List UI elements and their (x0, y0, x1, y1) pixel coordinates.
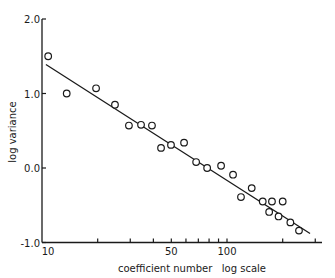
data-point (204, 165, 211, 172)
data-point (112, 101, 119, 108)
data-point (248, 185, 255, 192)
x-axis: 1050100 (42, 239, 322, 257)
data-point (269, 198, 276, 205)
y-tick-label: -1.0 (20, 238, 40, 249)
data-point (158, 145, 165, 152)
data-point (279, 198, 286, 205)
data-point (259, 198, 266, 205)
data-point (138, 121, 145, 128)
data-point (63, 90, 70, 97)
regression-line (46, 64, 310, 233)
x-tick-label: 10 (42, 246, 55, 257)
y-tick-label: 1.0 (24, 89, 40, 100)
data-point (218, 162, 225, 169)
data-point (296, 227, 303, 234)
data-point (266, 209, 273, 216)
y-axis: 2.01.00.0-1.0 (20, 14, 46, 249)
data-point (181, 139, 188, 146)
x-axis-label: coefficient number log scale (118, 263, 266, 274)
data-point (149, 122, 156, 129)
y-tick-label: 2.0 (24, 14, 40, 25)
x-tick-label: 50 (165, 246, 178, 257)
data-point (193, 159, 200, 166)
scatter-chart: 2.01.00.0-1.0 1050100 log variance coeff… (0, 0, 335, 278)
y-axis-label: log variance (7, 101, 18, 162)
data-point (126, 122, 133, 129)
fit-line (46, 64, 310, 233)
data-point (275, 213, 282, 220)
data-point (45, 53, 52, 60)
data-point (168, 142, 175, 149)
x-tick-label: 100 (217, 246, 236, 257)
data-point (238, 194, 245, 201)
y-tick-label: 0.0 (24, 163, 40, 174)
data-point (287, 219, 294, 226)
data-points (45, 53, 302, 234)
data-point (93, 85, 100, 92)
data-point (230, 171, 237, 178)
